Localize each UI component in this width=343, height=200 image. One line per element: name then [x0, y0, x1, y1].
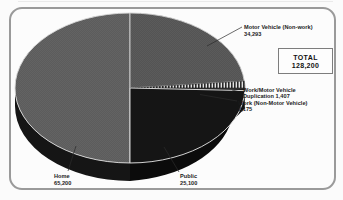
label-home-name: Home — [54, 173, 70, 179]
label-public: Public 25,100 — [180, 173, 197, 186]
label-work-motor-duplication: Work/Motor Vehicle Duplication 1,407 — [243, 87, 296, 100]
total-box-value: 128,200 — [292, 62, 319, 69]
label-motor-vehicle-name: Motor Vehicle (Non-work) — [244, 24, 313, 30]
label-public-name: Public — [180, 173, 197, 179]
total-box: TOTAL 128,200 — [278, 48, 333, 74]
label-public-value: 25,100 — [180, 180, 197, 187]
label-home-value: 65,200 — [54, 180, 71, 187]
label-home: Home 65,200 — [54, 173, 71, 186]
label-motor-vehicle-value: 34,293 — [244, 31, 313, 38]
pie-chart-figure: Motor Vehicle (Non-work) 34,293 Work/Mot… — [0, 0, 343, 200]
pie-slice-motor-vehicle — [130, 13, 244, 88]
pie-top-faces — [15, 13, 245, 163]
label-work-non-motor: Work (Non-Motor Vehicle) 2,175 — [238, 100, 307, 113]
label-motor-vehicle: Motor Vehicle (Non-work) 34,293 — [244, 24, 313, 37]
total-box-title: TOTAL — [293, 54, 318, 61]
label-work-non-motor-value: 2,175 — [238, 106, 307, 113]
label-work-non-motor-name: Work (Non-Motor Vehicle) — [238, 100, 307, 106]
label-work-motor-duplication-name: Work/Motor Vehicle — [243, 87, 296, 93]
